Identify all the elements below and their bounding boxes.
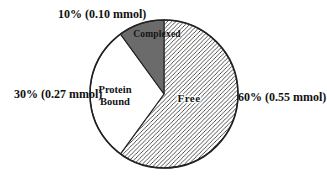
pie-chart-figure: 10% (0.10 mmol) 30% (0.27 mmol) 60% (0.5… <box>0 0 327 179</box>
callout-label-complexed: 10% (0.10 mmol) <box>58 7 146 22</box>
slice-label-free: Free <box>177 92 200 104</box>
slice-label-complexed: Complexed <box>133 29 181 39</box>
slice-label-protein-bound: Protein Bound <box>90 84 140 108</box>
callout-label-free: 60% (0.55 mmol) <box>238 90 326 105</box>
